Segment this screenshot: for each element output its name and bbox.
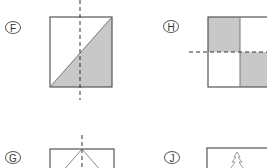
figure-g [50, 135, 114, 168]
tree-icon [231, 152, 243, 168]
figure-h [189, 17, 267, 87]
figures-canvas [0, 0, 267, 168]
figure-j [207, 148, 267, 168]
figure-f [50, 0, 112, 100]
